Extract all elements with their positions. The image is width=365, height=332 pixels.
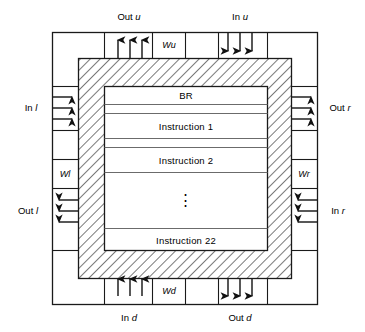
inner-core-box [105,87,268,251]
port-left-out-arrows [59,200,78,222]
port-label-bottom-out: Out d [228,313,251,323]
diagram-vector-layer [0,0,365,332]
weight-box-label-bottom: Wd [162,286,176,296]
port-label-bottom-in: In d [121,313,137,323]
port-bottom-in-arrows [118,279,142,296]
port-label-top-in: In u [232,12,248,22]
core-row-br: BR [179,90,193,101]
core-row-instruction-1: Instruction 1 [159,121,213,132]
port-right-out-arrows [292,97,311,119]
port-left-in-arrows [53,97,72,119]
port-label-right-out: Out r [329,103,350,113]
port-label-left-in: In l [25,103,38,113]
weight-box-label-right: Wr [298,169,310,179]
core-row-instruction-2: Instruction 2 [159,155,213,166]
port-top-in-arrows [228,33,252,51]
bottom-channel-dividers [105,279,268,305]
port-label-top-out: Out u [117,12,140,22]
port-top-out-arrows [118,40,142,58]
port-label-right-in: In r [331,206,345,216]
core-row-ellipsis: ⋮ [178,195,193,204]
core-row-instruction-22: Instruction 22 [156,235,216,246]
port-right-in-arrows [298,200,317,222]
port-label-left-out: Out l [18,206,38,216]
block-diagram: Out u Wu In u In l Wl Out l Out r Wr In … [0,0,365,332]
weight-box-label-left: Wl [60,169,71,179]
top-channel-dividers [105,33,268,59]
port-bottom-out-arrows [228,279,252,296]
weight-box-label-top: Wu [162,40,176,50]
